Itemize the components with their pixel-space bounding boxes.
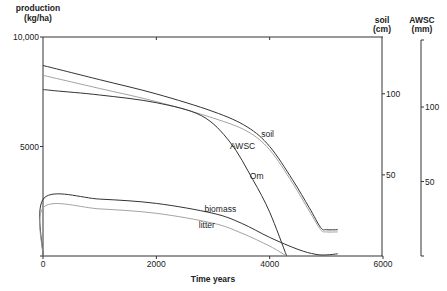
series-annotation-om: Om (250, 171, 264, 181)
series-annotation-awsc: AWSC (230, 141, 255, 151)
soil-axis-tick-label: 50 (386, 170, 396, 180)
awsc-axis-line (421, 40, 424, 256)
series-annotation-biomass: biomass (205, 204, 237, 214)
series-annotation-litter: litter (199, 220, 215, 230)
y-tick-label: 5000 (20, 142, 39, 152)
series-group (40, 66, 338, 257)
x-tick-label: 2000 (147, 259, 166, 269)
awsc-axis-tick-label: 100 (425, 102, 439, 112)
awsc-axis-label-line2: (mm) (412, 24, 433, 34)
y-axis-label-line1: production (16, 3, 60, 13)
soil-axis-label-line2: (cm) (373, 24, 391, 34)
x-axis-label: Time years (191, 274, 236, 284)
x-tick-label: 0 (41, 259, 46, 269)
awsc-axis-tick-label: 50 (425, 177, 435, 187)
series-annotation-soil: soil (261, 129, 274, 139)
x-tick-label: 6000 (374, 259, 393, 269)
x-tick-label: 4000 (260, 259, 279, 269)
y-tick-label: 10,000 (13, 32, 39, 42)
tick-group: 0200040006000500010,0005010050100 (13, 32, 439, 269)
series-line-biomass (40, 194, 338, 256)
soil-axis-tick-label: 100 (386, 89, 400, 99)
chart: production (kg/ha) soil (cm) AWSC (mm) T… (0, 0, 447, 291)
series-line-litter (40, 204, 287, 256)
annotation-group: soilAWSCOmbiomasslitter (199, 129, 274, 230)
y-axis-label-line2: (kg/ha) (24, 13, 52, 23)
series-line-soil (43, 66, 338, 230)
